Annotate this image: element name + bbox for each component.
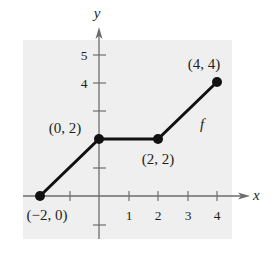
y-axis-label: y (92, 5, 101, 21)
x-tick-label: 1 (126, 208, 133, 223)
point-marker (212, 77, 222, 87)
point-marker (35, 191, 45, 201)
graph-of-f: 1 2 3 4 4 5 x y (−2, 0) (0, 2) (2, 2) (4… (0, 0, 277, 254)
y-tick-label: 4 (81, 76, 88, 91)
point-marker (94, 134, 104, 144)
y-tick-label: 5 (81, 48, 88, 63)
x-tick-label: 3 (185, 208, 192, 223)
x-axis-label: x (252, 187, 260, 203)
x-tick-label: 4 (214, 208, 221, 223)
point-label: (−2, 0) (27, 207, 68, 224)
point-marker (153, 134, 163, 144)
point-label: (4, 4) (188, 56, 221, 73)
point-label: (2, 2) (142, 151, 175, 168)
point-label: (0, 2) (49, 120, 82, 137)
x-tick-label: 2 (155, 208, 162, 223)
